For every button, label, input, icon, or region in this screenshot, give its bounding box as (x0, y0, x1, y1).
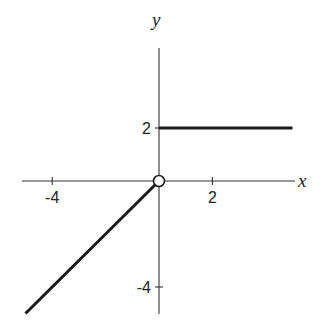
x-tick-label: 2 (208, 189, 217, 206)
y-tick-label: 2 (142, 120, 151, 137)
open-circle-marker (154, 176, 165, 187)
y-tick-label: -4 (137, 279, 151, 296)
markers-group (154, 176, 165, 187)
x-tick-label: -4 (45, 189, 59, 206)
y-axis-label: y (150, 9, 161, 30)
piecewise-function-chart: -422-4 x y (0, 0, 320, 329)
x-axis-label: x (297, 170, 307, 191)
